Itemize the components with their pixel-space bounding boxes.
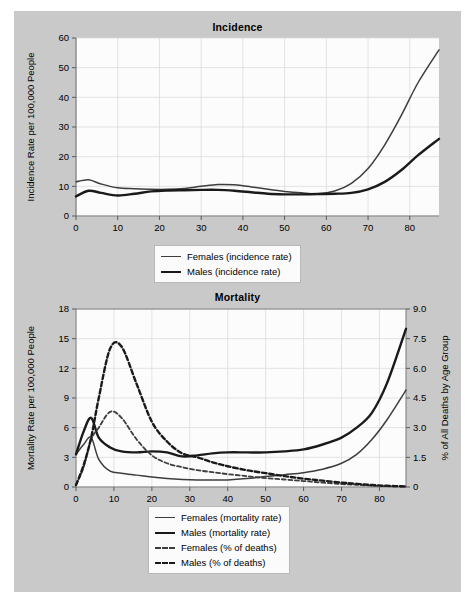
line-swatch-icon xyxy=(161,267,181,277)
x-tick-label: 30 xyxy=(185,493,196,504)
y-tick-label-right: 1.5 xyxy=(413,452,426,463)
x-tick-label: 10 xyxy=(109,493,120,504)
y-axis-title-right: % of All Deaths by Age Group xyxy=(439,335,450,460)
line-swatch-icon xyxy=(155,513,175,523)
y-tick-label-right: 9.0 xyxy=(413,303,426,314)
y-tick-label: 40 xyxy=(58,92,69,103)
legend-item-females-mortality[interactable]: Females (mortality rate) xyxy=(155,510,281,525)
dashed-line-swatch-icon xyxy=(155,558,175,568)
y-tick-label: 12 xyxy=(58,363,69,374)
legend-item-males-mortality[interactable]: Males (mortality rate) xyxy=(155,525,281,540)
x-tick-label: 80 xyxy=(405,222,416,233)
x-tick-label: 50 xyxy=(260,493,271,504)
y-axis-title: Incidence Rate per 100,000 People xyxy=(25,53,36,202)
y-axis-title: Mortality Rate per 100,000 People xyxy=(25,326,36,470)
x-tick-label: 70 xyxy=(336,493,347,504)
x-tick-label: 80 xyxy=(374,493,385,504)
y-tick-label-right: 4.5 xyxy=(413,392,426,403)
x-tick-label: 0 xyxy=(73,222,78,233)
legend-label: Females (% of deaths) xyxy=(181,542,277,553)
x-tick-label: 20 xyxy=(154,222,165,233)
y-tick-label: 6 xyxy=(64,422,69,433)
legend-item-males-incidence[interactable]: Males (incidence rate) xyxy=(161,264,292,279)
x-tick-label: 20 xyxy=(147,493,158,504)
incidence-legend: Females (incidence rate) Males (incidenc… xyxy=(154,245,301,283)
y-tick-label: 18 xyxy=(58,303,69,314)
legend-item-females-pct-deaths[interactable]: Females (% of deaths) xyxy=(155,540,281,555)
x-tick-label: 30 xyxy=(196,222,207,233)
x-tick-label: 50 xyxy=(279,222,290,233)
y-tick-label: 50 xyxy=(58,62,69,73)
y-tick-label: 0 xyxy=(64,481,69,492)
x-tick-label: 10 xyxy=(112,222,123,233)
x-tick-label: 0 xyxy=(73,493,78,504)
legend-label: Males (% of deaths) xyxy=(181,557,265,568)
legend-label: Females (mortality rate) xyxy=(181,512,281,523)
x-tick-label: 40 xyxy=(238,222,249,233)
line-swatch-icon xyxy=(155,528,175,538)
legend-item-females-incidence[interactable]: Females (incidence rate) xyxy=(161,249,292,264)
x-tick-label: 40 xyxy=(222,493,233,504)
x-tick-label: 70 xyxy=(363,222,374,233)
y-tick-label-right: 0 xyxy=(413,481,418,492)
incidence-chart: Incidence 010203040506001020304050607080… xyxy=(14,11,461,286)
y-tick-label: 20 xyxy=(58,151,69,162)
x-tick-label: 60 xyxy=(321,222,332,233)
y-tick-label: 30 xyxy=(58,121,69,132)
y-tick-label-right: 7.5 xyxy=(413,333,426,344)
y-tick-label: 3 xyxy=(64,452,69,463)
y-tick-label: 10 xyxy=(58,181,69,192)
x-tick-label: 60 xyxy=(298,493,309,504)
legend-label: Males (incidence rate) xyxy=(187,266,280,277)
dashed-line-swatch-icon xyxy=(155,543,175,553)
y-tick-label: 0 xyxy=(64,210,69,221)
mortality-chart: Mortality 036912151801.53.04.56.07.59.00… xyxy=(14,290,461,592)
y-tick-label: 60 xyxy=(58,32,69,43)
y-tick-label: 15 xyxy=(58,333,69,344)
line-swatch-icon xyxy=(161,252,181,262)
legend-item-males-pct-deaths[interactable]: Males (% of deaths) xyxy=(155,555,281,570)
figure-root: Incidence 010203040506001020304050607080… xyxy=(0,0,475,604)
legend-label: Males (mortality rate) xyxy=(181,527,270,538)
mortality-legend: Females (mortality rate) Males (mortalit… xyxy=(148,506,290,574)
legend-label: Females (incidence rate) xyxy=(187,251,292,262)
y-tick-label-right: 3.0 xyxy=(413,422,426,433)
y-tick-label: 9 xyxy=(64,392,69,403)
y-tick-label-right: 6.0 xyxy=(413,363,426,374)
